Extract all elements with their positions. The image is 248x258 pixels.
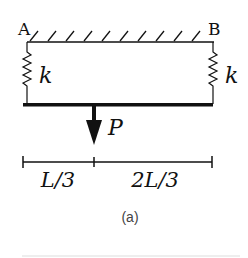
rigid-beam xyxy=(23,103,213,107)
dimension-label-right: 2L/3 xyxy=(130,168,179,192)
fixed-support xyxy=(27,31,214,42)
right-spring xyxy=(209,42,217,96)
left-spring xyxy=(23,42,31,96)
spring-label-left: k xyxy=(39,63,52,88)
figure-caption: (a) xyxy=(121,209,138,225)
load-label: P xyxy=(107,115,124,140)
dimension-label-left: L/3 xyxy=(40,168,75,192)
support-label-b: B xyxy=(208,19,221,39)
dimension-line xyxy=(23,156,212,168)
support-label-a: A xyxy=(17,19,31,39)
load-arrow-icon xyxy=(86,106,102,145)
spring-label-right: k xyxy=(225,63,238,88)
beam-diagram: A B k k P L/3 2L/3 (a) xyxy=(0,0,248,258)
